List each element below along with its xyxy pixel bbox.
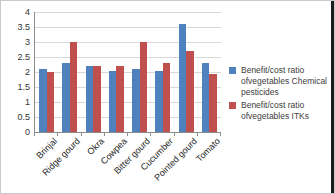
bar-itk	[116, 66, 124, 132]
y-tick-label: 1.5	[1, 82, 30, 92]
bar-chemical	[109, 71, 117, 133]
x-tick	[220, 133, 221, 136]
y-tick-label: 1	[1, 97, 30, 107]
y-tick-label: 3	[1, 37, 30, 47]
bar-chemical	[132, 69, 140, 132]
bar-chemical	[202, 63, 210, 132]
y-tick-label: 2.5	[1, 52, 30, 62]
legend-label: Benefit/cost ratio ofvegetables Chemical…	[241, 65, 333, 98]
bar-chemical	[62, 63, 70, 132]
bar-itk	[47, 72, 55, 132]
x-tick	[174, 133, 175, 136]
y-tick-label: 3.5	[1, 22, 30, 32]
gridline	[35, 12, 221, 13]
y-tick-label: 4	[1, 7, 30, 17]
bar-itk	[163, 63, 171, 132]
x-tick	[127, 133, 128, 136]
gridline	[35, 27, 221, 28]
bar-itk	[93, 66, 101, 132]
y-tick-label: 0.5	[1, 112, 30, 122]
y-tick-label: 2	[1, 67, 30, 77]
bar-chemical	[155, 71, 163, 133]
gridline	[35, 42, 221, 43]
legend-label: Benefit/cost ratio ofvegetables ITKs	[241, 100, 333, 122]
bar-chemical	[39, 69, 47, 132]
legend-swatch-icon	[229, 102, 236, 109]
x-tick	[34, 133, 35, 136]
x-tick	[104, 133, 105, 136]
x-tick	[81, 133, 82, 136]
bar-itk	[209, 74, 217, 133]
bar-chemical	[179, 24, 187, 132]
y-tick-label: 0	[1, 127, 30, 137]
chart-page: 43.532.521.510.50 BrinjalRidge gourdOkra…	[0, 0, 335, 194]
bar-chemical	[86, 66, 94, 132]
x-tick	[197, 133, 198, 136]
legend-entry: Benefit/cost ratio ofvegetables Chemical…	[229, 65, 333, 98]
legend-entry: Benefit/cost ratio ofvegetables ITKs	[229, 100, 333, 122]
x-tick	[150, 133, 151, 136]
bar-itk	[140, 42, 148, 132]
plot-area	[34, 12, 221, 133]
bar-itk	[70, 42, 78, 132]
legend-swatch-icon	[229, 67, 236, 74]
bar-itk	[186, 51, 194, 132]
scan-edge-line	[331, 1, 334, 194]
x-tick	[57, 133, 58, 136]
